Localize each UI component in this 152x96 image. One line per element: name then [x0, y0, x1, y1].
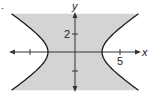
x-axis-label: x: [141, 46, 148, 58]
x-axis-left-arrow-icon: [9, 50, 15, 55]
y-tick-label-2: 2: [64, 28, 70, 40]
hyperbola-graph: . y x 2 5: [0, 0, 152, 96]
x-axis-right-arrow-icon: [135, 50, 141, 55]
x-tick-label-5: 5: [117, 55, 123, 67]
figure-marker: .: [1, 0, 4, 11]
y-axis-label: y: [71, 0, 79, 12]
